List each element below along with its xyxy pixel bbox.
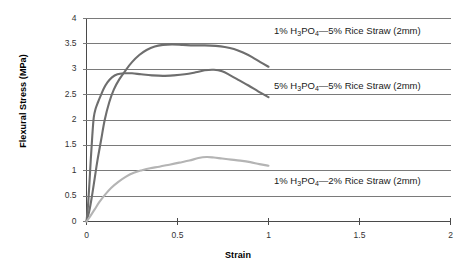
- x-tick-label: 1: [254, 230, 284, 240]
- x-tick-label: 0: [72, 230, 102, 240]
- y-tick-label: 0: [49, 216, 77, 226]
- y-tick-label: 4: [49, 13, 77, 23]
- y-axis-ticks: [83, 19, 87, 222]
- series-curves: [87, 44, 269, 221]
- y-axis-title: Flexural Stress (MPa): [18, 36, 28, 166]
- x-axis-title: Strain: [0, 250, 476, 260]
- y-tick-label: 0.5: [49, 190, 77, 200]
- x-tick-label: 0.5: [163, 230, 193, 240]
- series-curve-1: [87, 44, 269, 221]
- y-tick-label: 2.5: [49, 89, 77, 99]
- y-tick-label: 3: [49, 63, 77, 73]
- annotation-1pct-2pct: 1% H3PO4—2% Rice Straw (2mm): [274, 175, 421, 186]
- y-tick-label: 1: [49, 165, 77, 175]
- x-tick-label: 1.5: [345, 230, 375, 240]
- flexural-stress-strain-chart: Flexural Stress (MPa) Strain 00.511.522.…: [0, 0, 476, 276]
- y-tick-label: 1.5: [49, 139, 77, 149]
- series-curve-3: [87, 157, 269, 221]
- y-tick-label: 2: [49, 114, 77, 124]
- x-tick-label: 2: [436, 230, 466, 240]
- y-tick-label: 3.5: [49, 38, 77, 48]
- annotation-5pct-5pct: 5% H3PO4—5% Rice Straw (2mm): [274, 80, 421, 91]
- annotation-1pct-5pct: 1% H3PO4—5% Rice Straw (2mm): [274, 25, 421, 36]
